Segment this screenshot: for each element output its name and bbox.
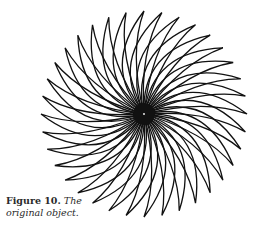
petal <box>144 92 247 114</box>
petal <box>122 11 144 114</box>
caption-label: Figure 10. <box>6 195 61 206</box>
petal <box>144 114 166 217</box>
figure-caption: Figure 10. The original object. <box>6 195 86 219</box>
center-dot <box>143 113 145 115</box>
petal <box>41 114 144 136</box>
